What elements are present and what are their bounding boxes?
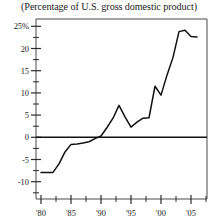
x-tick-label: '80: [36, 209, 46, 218]
y-tick-label: 0: [25, 133, 29, 142]
x-tick-label: '95: [126, 209, 136, 218]
x-tick-label: '85: [66, 209, 76, 218]
chart-figure: (Percentage of U.S. gross domestic produ…: [0, 0, 218, 224]
data-series-line: [41, 30, 197, 172]
y-tick-label: 25%: [14, 22, 29, 31]
y-axis-labels: 25% 20 15 10 5 0 -5 -10: [14, 22, 29, 186]
y-tick-label: 5: [25, 111, 29, 120]
chart-plot-area: 25% 20 15 10 5 0 -5 -10: [0, 0, 218, 224]
x-tick-label: '05: [186, 209, 196, 218]
y-tick-label: -10: [18, 178, 29, 187]
y-tick-label: 15: [21, 67, 29, 76]
x-axis-labels: '80 '85 '90 '95 '00 '05: [36, 209, 196, 218]
y-tick-label: 10: [21, 89, 29, 98]
y-tick-label: 20: [21, 45, 29, 54]
x-tick-label: '90: [96, 209, 106, 218]
y-tick-label: -5: [22, 156, 29, 165]
x-tick-label: '00: [156, 209, 166, 218]
